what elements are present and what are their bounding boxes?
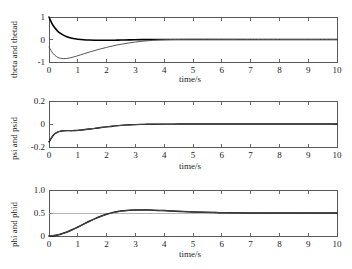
svg-text:9: 9: [306, 239, 311, 249]
svg-text:0: 0: [41, 35, 46, 45]
svg-text:2: 2: [104, 65, 109, 75]
svg-text:8: 8: [277, 65, 282, 75]
figure-container: 012345678910-101 theta and thetad time/s…: [0, 0, 352, 269]
svg-text:4: 4: [162, 150, 167, 160]
svg-text:7: 7: [248, 150, 253, 160]
ylabel-phi: phi and phid: [9, 202, 19, 247]
svg-text:2: 2: [104, 150, 109, 160]
svg-text:6: 6: [220, 150, 225, 160]
svg-text:3: 3: [133, 150, 138, 160]
svg-text:5: 5: [191, 65, 196, 75]
ylabel-psi: psi and psid: [9, 117, 19, 160]
svg-text:0.2: 0.2: [34, 96, 45, 106]
ylabel-theta: theta and thetad: [9, 21, 19, 78]
svg-text:-0.2: -0.2: [31, 142, 45, 152]
svg-text:8: 8: [277, 150, 282, 160]
svg-text:10: 10: [333, 239, 343, 249]
svg-text:1: 1: [41, 12, 46, 22]
svg-text:7: 7: [248, 239, 253, 249]
svg-text:0: 0: [47, 65, 52, 75]
svg-text:0: 0: [47, 150, 52, 160]
svg-text:6: 6: [220, 239, 225, 249]
svg-text:9: 9: [306, 65, 311, 75]
svg-text:5: 5: [191, 239, 196, 249]
svg-text:8: 8: [277, 239, 282, 249]
svg-text:1.0: 1.0: [34, 185, 46, 195]
svg-text:9: 9: [306, 150, 311, 160]
svg-text:10: 10: [333, 65, 343, 75]
svg-text:3: 3: [133, 239, 138, 249]
svg-text:1: 1: [76, 65, 81, 75]
xlabel-psi: time/s: [40, 161, 340, 171]
svg-text:4: 4: [162, 65, 167, 75]
svg-text:0: 0: [47, 239, 52, 249]
svg-text:10: 10: [333, 150, 343, 160]
svg-text:3: 3: [133, 65, 138, 75]
svg-text:7: 7: [248, 65, 253, 75]
svg-text:1: 1: [76, 239, 81, 249]
svg-text:1: 1: [76, 150, 81, 160]
svg-text:0: 0: [41, 119, 46, 129]
svg-text:0.5: 0.5: [34, 208, 46, 218]
svg-text:5: 5: [191, 150, 196, 160]
svg-text:0: 0: [41, 231, 46, 241]
svg-text:-1: -1: [38, 57, 46, 67]
svg-text:4: 4: [162, 239, 167, 249]
svg-text:6: 6: [220, 65, 225, 75]
xlabel-phi: time/s: [40, 249, 340, 259]
xlabel-theta: time/s: [40, 74, 340, 84]
svg-text:2: 2: [104, 239, 109, 249]
